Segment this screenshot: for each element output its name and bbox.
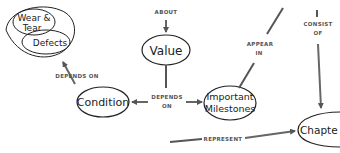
node-defects-label: Defects xyxy=(33,38,68,48)
link-appear-1: APPEAR xyxy=(247,41,274,47)
node-milestones-label-2: Milestones xyxy=(205,103,256,114)
node-wear-tear-label: Wear & xyxy=(17,13,50,23)
link-consist-2: OF xyxy=(313,30,322,36)
edge-appear-in-top xyxy=(267,8,283,34)
link-depends-on-mid-2: ON xyxy=(162,103,172,109)
node-value-label: Value xyxy=(150,44,183,58)
edge-represent-left xyxy=(170,139,202,142)
edge-represent-right xyxy=(245,131,295,138)
link-depends-on-top: DEPENDS ON xyxy=(55,73,99,79)
edge-consist-of-bottom xyxy=(318,44,321,108)
node-chapter-label: Chapte xyxy=(300,124,338,136)
edge-appear-in-bottom xyxy=(239,63,254,88)
link-appear-2: IN xyxy=(255,50,262,56)
link-consist-1: CONSIST xyxy=(303,21,332,27)
concept-map: Wear & Tear Defects Value Condition Impo… xyxy=(0,0,340,153)
link-represent: REPRESENT xyxy=(204,136,243,142)
node-wear-tear-label-2: Tear xyxy=(22,23,42,33)
node-milestones-label-1: Important xyxy=(206,91,253,102)
link-about: ABOUT xyxy=(155,9,178,15)
node-condition-label: Condition xyxy=(77,96,130,109)
link-depends-on-mid-1: DEPENDS xyxy=(151,94,182,100)
